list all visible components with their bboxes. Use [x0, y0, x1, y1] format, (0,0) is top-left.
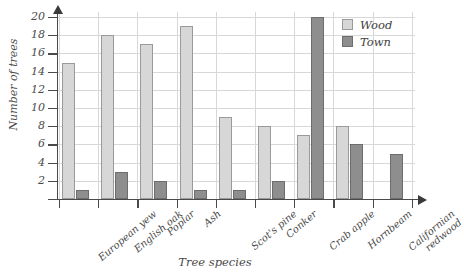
y-axis-tick: [48, 53, 58, 54]
x-axis-category-label: Ash: [201, 208, 223, 229]
y-axis-title: Number of trees: [7, 20, 20, 150]
gridline-vertical: [216, 12, 217, 199]
legend-swatch-town-icon: [342, 36, 353, 47]
gridline-vertical: [255, 12, 256, 199]
gridline-vertical: [294, 12, 295, 199]
x-axis-tick: [98, 199, 99, 208]
bar-town: [350, 144, 363, 199]
y-axis-tick: [48, 17, 58, 18]
bar-town: [272, 181, 285, 199]
y-axis-tick: [48, 144, 58, 145]
gridline-vertical: [333, 12, 334, 199]
bar-town: [233, 190, 246, 199]
y-axis-tick-label: 2: [5, 175, 45, 186]
y-axis-tick: [48, 90, 58, 91]
y-axis-tick: [48, 181, 58, 182]
legend-label-wood: Wood: [360, 18, 392, 32]
y-axis-tick: [48, 126, 58, 127]
legend: Wood Town: [342, 16, 392, 50]
bar-town: [194, 190, 207, 199]
x-axis-tick: [412, 199, 413, 208]
y-axis-tick: [48, 72, 58, 73]
legend-item-town: Town: [342, 33, 392, 50]
bar-wood: [336, 126, 349, 199]
gridline-vertical: [59, 12, 60, 199]
gridline-vertical: [412, 12, 413, 199]
bar-wood: [297, 135, 310, 199]
bar-town: [154, 181, 167, 199]
bar-wood: [180, 26, 193, 199]
x-axis-tick: [333, 199, 334, 208]
x-axis-tick: [255, 199, 256, 208]
x-axis-arrow-icon: [418, 195, 427, 205]
bar-wood: [101, 35, 114, 199]
legend-item-wood: Wood: [342, 16, 392, 33]
bar-wood: [258, 126, 271, 199]
y-axis-line: [57, 12, 58, 200]
legend-label-town: Town: [360, 35, 391, 49]
bar-wood: [140, 44, 153, 199]
x-axis-category-label: Californianredwood: [406, 208, 464, 261]
x-axis-title: Tree species: [150, 255, 280, 269]
x-axis-tick: [59, 199, 60, 208]
y-axis-tick: [48, 163, 58, 164]
x-axis-tick: [137, 199, 138, 208]
bar-town: [76, 190, 89, 199]
x-axis-line: [48, 199, 420, 200]
bar-town: [390, 154, 403, 200]
legend-swatch-wood-icon: [342, 19, 353, 30]
y-axis-arrow-icon: [53, 5, 63, 14]
gridline-vertical: [98, 12, 99, 199]
bar-town: [311, 17, 324, 199]
x-axis-tick: [216, 199, 217, 208]
bar-wood: [62, 63, 75, 200]
x-axis-tick: [373, 199, 374, 208]
y-axis-tick-label: 4: [5, 157, 45, 168]
y-axis-tick: [48, 108, 58, 109]
x-axis-tick: [294, 199, 295, 208]
bar-town: [115, 172, 128, 199]
gridline-vertical: [177, 12, 178, 199]
gridline-vertical: [137, 12, 138, 199]
x-axis-tick: [177, 199, 178, 208]
y-axis-tick: [48, 35, 58, 36]
bar-wood: [219, 117, 232, 199]
